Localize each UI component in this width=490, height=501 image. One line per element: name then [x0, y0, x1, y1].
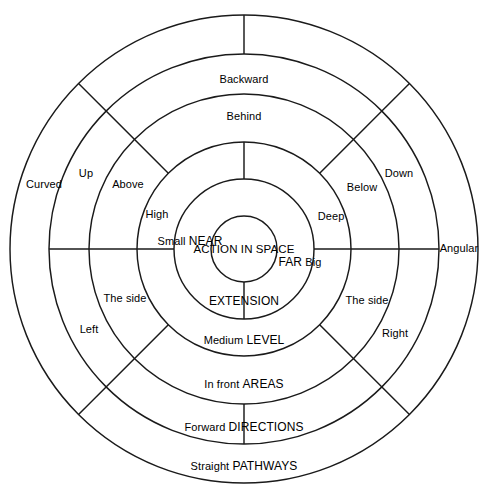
label-medium: Medium	[204, 334, 244, 346]
label-side-left: The side	[104, 293, 147, 305]
label-right: Right	[382, 328, 408, 340]
label-below: Below	[347, 182, 377, 194]
label-behind: Behind	[227, 111, 262, 123]
core-line-3: SPACE	[256, 243, 295, 255]
label-big: Big	[305, 256, 321, 268]
spoke-ne	[320, 111, 382, 173]
label-pathways-caps: PATHWAYS	[232, 459, 297, 473]
label-level: Medium LEVEL	[204, 334, 285, 347]
label-forward: Forward	[184, 421, 225, 433]
label-pathways: Straight PATHWAYS	[191, 460, 298, 473]
label-extension: EXTENSION	[209, 295, 279, 308]
label-deep: Deep	[318, 211, 345, 223]
label-left: Left	[80, 324, 99, 336]
core-line-2: IN	[241, 243, 253, 255]
label-far-caps: FAR	[279, 255, 303, 269]
diagram-page: ACTION IN SPACE Small NEAR FAR Big High …	[0, 0, 490, 501]
label-directions-caps: DIRECTIONS	[229, 420, 304, 434]
label-near: Small NEAR	[158, 235, 223, 248]
label-side-right: The side	[346, 295, 389, 307]
spoke-nw	[106, 111, 168, 173]
label-straight: Straight	[191, 460, 230, 472]
label-level-caps: LEVEL	[247, 333, 285, 347]
spoke-ne-outer	[382, 84, 410, 112]
label-angular: Angular	[440, 243, 479, 255]
label-areas: In front AREAS	[204, 378, 283, 391]
label-areas-caps: AREAS	[243, 377, 284, 391]
label-directions: Forward DIRECTIONS	[184, 421, 303, 434]
label-up: Up	[79, 168, 93, 180]
label-far: FAR Big	[279, 256, 322, 269]
spoke-se	[320, 325, 382, 387]
label-backward: Backward	[219, 74, 268, 86]
label-in-front: In front	[204, 378, 239, 390]
label-small: Small	[158, 235, 186, 247]
label-near-caps: NEAR	[189, 234, 223, 248]
label-above: Above	[112, 179, 144, 191]
label-curved: Curved	[26, 179, 62, 191]
spoke-sw	[106, 325, 168, 387]
spoke-se-outer	[382, 387, 410, 415]
spoke-sw-outer	[79, 387, 107, 415]
label-high: High	[145, 209, 168, 221]
spoke-nw-outer	[79, 84, 107, 112]
label-down: Down	[385, 168, 414, 180]
